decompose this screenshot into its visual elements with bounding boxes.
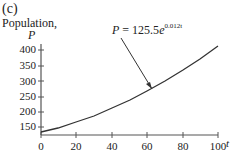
plot-area bbox=[0, 0, 241, 166]
arrowhead-icon bbox=[146, 82, 152, 89]
annotation-arrow bbox=[121, 38, 152, 89]
population-curve bbox=[41, 46, 218, 132]
